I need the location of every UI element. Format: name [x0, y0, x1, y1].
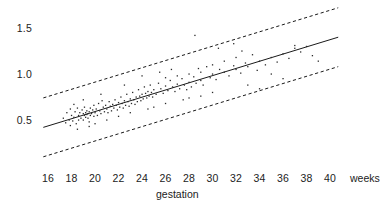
x-axis-tick-label: 26	[154, 172, 178, 184]
data-point	[86, 110, 87, 111]
data-point	[215, 79, 216, 80]
data-point	[127, 101, 128, 102]
data-point	[90, 107, 91, 108]
data-point	[165, 103, 166, 104]
data-point	[271, 73, 272, 74]
data-point	[191, 86, 192, 87]
data-point	[165, 85, 166, 86]
data-point	[210, 77, 211, 78]
data-point	[110, 106, 111, 107]
y-axis-tick-label: 0.5	[6, 114, 32, 126]
data-point	[65, 122, 66, 123]
data-point	[70, 125, 71, 126]
data-point	[86, 114, 87, 115]
data-point	[123, 107, 124, 108]
data-point	[194, 35, 195, 36]
data-point	[265, 64, 266, 65]
data-point	[130, 98, 131, 99]
prediction-band-lower-line	[43, 67, 338, 157]
data-point	[156, 94, 157, 95]
data-point	[147, 91, 148, 92]
data-point	[74, 111, 75, 112]
data-point	[93, 105, 94, 106]
data-point	[130, 112, 131, 113]
data-point	[184, 84, 185, 85]
x-axis-tick-label: 32	[224, 172, 248, 184]
x-axis-tick-label: 36	[271, 172, 295, 184]
data-point	[179, 88, 180, 89]
data-point	[99, 110, 100, 111]
x-axis-tick-label: 30	[201, 172, 225, 184]
data-point	[170, 80, 171, 81]
data-point	[85, 112, 86, 113]
data-point	[69, 119, 70, 120]
data-point	[245, 62, 246, 63]
data-point	[109, 101, 110, 102]
data-point	[94, 123, 95, 124]
data-point	[140, 100, 141, 101]
x-axis-tick-label: 28	[177, 172, 201, 184]
data-point	[145, 93, 146, 94]
data-point	[90, 115, 91, 116]
data-point	[203, 84, 204, 85]
data-point	[193, 76, 194, 77]
data-point	[167, 90, 168, 91]
data-point	[139, 95, 140, 96]
data-point	[148, 95, 149, 96]
data-point	[300, 51, 301, 52]
data-point	[101, 100, 102, 101]
x-axis-title: gestation	[156, 188, 199, 200]
data-point	[128, 106, 129, 107]
data-point	[257, 70, 258, 71]
data-point	[200, 95, 201, 96]
data-point	[163, 93, 164, 94]
data-point	[171, 69, 172, 70]
data-point	[212, 64, 213, 65]
data-point	[103, 107, 104, 108]
data-point	[188, 97, 189, 98]
data-point	[78, 119, 79, 120]
chart-figure: 0.51.01.5 16182022242628303234363840 ges…	[0, 0, 388, 218]
data-point	[160, 88, 161, 89]
data-point	[121, 103, 122, 104]
data-point	[91, 113, 92, 114]
data-point	[200, 72, 201, 73]
data-point	[80, 118, 81, 119]
data-point	[112, 104, 113, 105]
data-point	[63, 118, 64, 119]
data-point	[138, 89, 139, 90]
data-point	[153, 107, 154, 108]
data-point	[198, 68, 199, 69]
data-point	[106, 108, 107, 109]
data-point	[233, 43, 234, 44]
data-point	[288, 58, 289, 59]
data-point	[105, 105, 106, 106]
data-point	[188, 82, 189, 83]
data-point	[219, 69, 220, 70]
prediction-band-upper-line	[43, 8, 338, 98]
data-point	[70, 108, 71, 109]
data-point	[134, 104, 135, 105]
data-point	[277, 61, 278, 62]
scatter-plot-canvas	[0, 0, 388, 218]
data-point	[183, 99, 184, 100]
data-point	[235, 69, 236, 70]
data-point	[271, 57, 272, 58]
data-point	[159, 72, 160, 73]
data-point	[96, 108, 97, 109]
data-point	[247, 66, 248, 67]
data-point	[312, 55, 313, 56]
data-point	[282, 53, 283, 54]
data-point	[306, 46, 307, 47]
data-point	[118, 102, 119, 103]
data-point	[158, 83, 159, 84]
data-point	[212, 92, 213, 93]
data-point	[141, 94, 142, 95]
data-point	[282, 78, 283, 79]
data-point	[94, 112, 95, 113]
data-point	[294, 48, 295, 49]
x-axis-tick-label: 22	[107, 172, 131, 184]
x-axis-tick-label: 40	[318, 172, 342, 184]
data-point	[294, 45, 295, 46]
data-point	[76, 123, 77, 124]
